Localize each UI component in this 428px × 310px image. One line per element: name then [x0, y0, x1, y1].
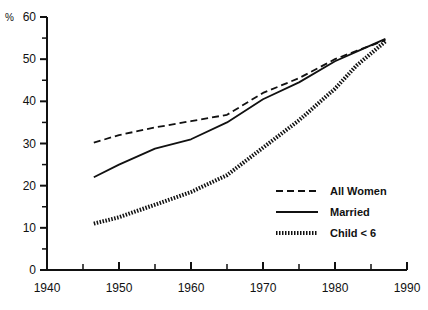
legend-label-2: Married [330, 206, 370, 218]
x-tick-label: 1990 [394, 281, 421, 295]
x-tick-label: 1950 [106, 281, 133, 295]
series-line-all-women [94, 40, 386, 142]
x-tick-label: 1970 [250, 281, 277, 295]
x-axis-tick-labels: 194019501960197019801990 [34, 281, 421, 295]
x-tick-label: 1940 [34, 281, 61, 295]
x-tick-label: 1960 [178, 281, 205, 295]
series-line-married [94, 39, 386, 177]
y-axis-unit-label: % [5, 12, 14, 23]
legend-label-1: All Women [330, 185, 387, 197]
chart-figure: 0102030405060 194019501960197019801990 %… [0, 0, 428, 310]
y-tick-label: 10 [23, 221, 37, 235]
y-tick-label: 0 [29, 263, 36, 277]
x-axis-group: 194019501960197019801990 [34, 262, 421, 295]
y-tick-label: 50 [23, 52, 37, 66]
line-chart-canvas: 0102030405060 194019501960197019801990 %… [0, 0, 428, 310]
y-tick-label: 60 [23, 10, 37, 24]
y-tick-label: 30 [23, 137, 37, 151]
y-axis-group: 0102030405060 [23, 10, 47, 277]
y-tick-label: 20 [23, 179, 37, 193]
y-tick-label: 40 [23, 94, 37, 108]
legend-label-3: Child < 6 [330, 227, 376, 239]
chart-legend: All WomenMarriedChild < 6 [276, 185, 387, 239]
y-axis-major-ticks [40, 17, 47, 270]
y-axis-tick-labels: 0102030405060 [23, 10, 37, 277]
x-tick-label: 1980 [322, 281, 349, 295]
